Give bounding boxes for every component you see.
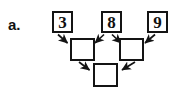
number-box-top-2[interactable]: 8	[101, 11, 122, 33]
arrow-mid1-to-bottom	[79, 62, 90, 70]
answer-box-bottom-1[interactable]	[93, 63, 118, 87]
arrow-3-to-mid1	[58, 35, 68, 44]
problem-label: a.	[8, 17, 21, 33]
number-box-top-3[interactable]: 9	[147, 11, 168, 33]
number-box-top-1[interactable]: 3	[52, 11, 73, 33]
worksheet-problem-diagram: a. 3 8 9	[0, 0, 177, 96]
arrow-8-to-mid1	[95, 35, 104, 44]
arrow-9-to-mid2	[145, 35, 155, 44]
arrow-mid2-to-bottom	[122, 62, 135, 70]
answer-box-middle-2[interactable]	[119, 38, 144, 61]
answer-box-middle-1[interactable]	[70, 38, 95, 61]
